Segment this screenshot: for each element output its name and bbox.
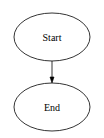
end-label: End bbox=[44, 102, 60, 113]
node-start: Start bbox=[14, 13, 90, 61]
edge-start-to-end bbox=[50, 61, 54, 83]
flowchart-canvas: Start End bbox=[0, 0, 104, 138]
arrow-head-icon bbox=[50, 77, 54, 83]
node-end: End bbox=[14, 83, 90, 131]
start-label: Start bbox=[43, 32, 62, 43]
